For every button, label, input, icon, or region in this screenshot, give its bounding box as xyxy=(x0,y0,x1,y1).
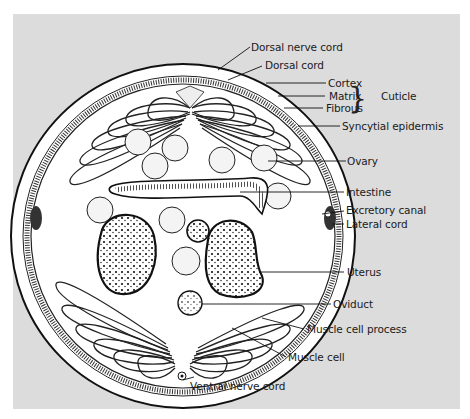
label-matrix: Matrix xyxy=(329,90,361,102)
label-dorsal-cord: Dorsal cord xyxy=(265,59,324,71)
label-excretory-canal: Excretory canal xyxy=(346,204,426,216)
label-lateral-cord: Lateral cord xyxy=(346,218,408,230)
label-cortex: Cortex xyxy=(328,77,362,89)
label-dorsal-nerve-cord: Dorsal nerve cord xyxy=(251,41,343,53)
label-muscle-cell: Muscle cell xyxy=(288,351,345,363)
label-cuticle: Cuticle xyxy=(381,90,416,102)
label-uterus: Uterus xyxy=(347,266,381,278)
label-fibrous: Fibrous xyxy=(326,102,363,114)
label-syncytial-epidermis: Syncytial epidermis xyxy=(342,120,443,132)
oviduct xyxy=(178,291,202,315)
excretory-canal xyxy=(325,211,331,217)
label-intestine: Intestine xyxy=(346,186,391,198)
label-ovary: Ovary xyxy=(347,155,378,167)
label-oviduct: Oviduct xyxy=(333,298,373,310)
label-ventral-nerve-cord: Ventral nerve cord xyxy=(190,380,285,392)
label-muscle-cell-process: Muscle cell process xyxy=(307,323,407,335)
